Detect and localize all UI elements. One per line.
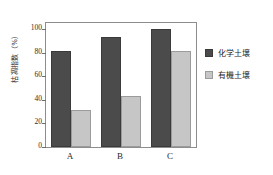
y-tick-mark xyxy=(42,100,46,101)
x-tick-label: A xyxy=(55,152,85,161)
y-tick-mark xyxy=(42,123,46,124)
plot-area xyxy=(45,22,197,148)
dark-square-swatch xyxy=(205,49,213,57)
bar xyxy=(71,110,91,147)
bar-group xyxy=(101,23,141,147)
y-tick-label: 0 xyxy=(22,142,42,150)
bar xyxy=(51,51,71,147)
y-tick-mark xyxy=(42,147,46,148)
bar-group xyxy=(51,23,91,147)
x-tick-label: B xyxy=(105,152,135,161)
y-tick-mark xyxy=(42,53,46,54)
y-tick-label: 40 xyxy=(22,95,42,103)
y-tick-mark xyxy=(42,29,46,30)
bar xyxy=(101,37,121,147)
legend-item-label: 化学土壌 xyxy=(218,49,250,58)
y-axis-title: 枯凋指数（%） xyxy=(9,5,19,109)
chart-legend: 化学土壌 有機土壌 xyxy=(205,48,273,92)
legend-item: 化学土壌 xyxy=(205,48,273,58)
y-tick-label: 60 xyxy=(22,71,42,79)
y-tick-label: 80 xyxy=(22,48,42,56)
legend-item: 有機土壌 xyxy=(205,70,273,80)
y-tick-label: 100 xyxy=(22,24,42,32)
bar xyxy=(151,29,171,147)
bar xyxy=(171,51,191,147)
y-tick-mark xyxy=(42,76,46,77)
bar-group xyxy=(151,23,191,147)
bar xyxy=(121,96,141,147)
plot-inner xyxy=(46,23,196,147)
x-tick-label: C xyxy=(155,152,185,161)
bar-chart-figure: 枯凋指数（%） 020406080100 ABC 化学土壌 有機土壌 xyxy=(0,0,273,175)
legend-item-label: 有機土壌 xyxy=(218,71,250,80)
light-square-swatch xyxy=(205,71,213,79)
y-axis-tick-labels: 020406080100 xyxy=(20,0,42,175)
y-tick-label: 20 xyxy=(22,119,42,127)
